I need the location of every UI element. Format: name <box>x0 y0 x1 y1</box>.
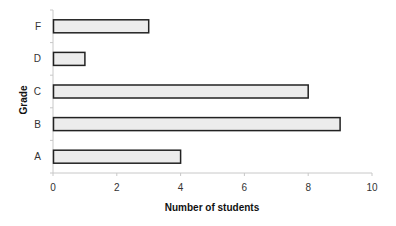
y-tick-label: C <box>34 86 41 97</box>
bar-c <box>54 85 309 98</box>
bar-chart: ABCDF 0246810 Number of students Grade <box>0 0 396 226</box>
x-tick-label: 8 <box>305 182 311 193</box>
y-tick-label: B <box>34 119 41 130</box>
y-axis-title: Grade <box>18 85 29 114</box>
y-tick-label: D <box>34 53 41 64</box>
x-tick-label: 6 <box>242 182 248 193</box>
x-tick-label: 4 <box>178 182 184 193</box>
bar-d <box>54 52 85 65</box>
x-axis: 0246810 <box>50 173 378 193</box>
x-tick-label: 2 <box>114 182 120 193</box>
y-tick-label: F <box>35 21 41 32</box>
x-tick-label: 0 <box>50 182 56 193</box>
x-tick-label: 10 <box>366 182 378 193</box>
bar-a <box>54 150 181 163</box>
bars <box>54 20 341 163</box>
bar-b <box>54 118 341 131</box>
x-axis-title: Number of students <box>165 202 260 213</box>
bar-f <box>54 20 149 33</box>
y-axis: ABCDF <box>34 10 53 173</box>
y-tick-label: A <box>34 151 41 162</box>
